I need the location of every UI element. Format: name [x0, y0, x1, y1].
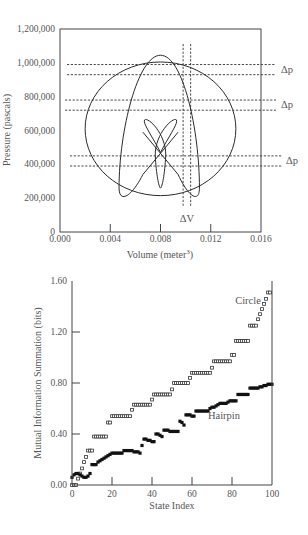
y-tick-label: 400,000 — [24, 159, 55, 169]
circle-data-point — [83, 461, 86, 464]
x-tick-label: 0 — [70, 489, 75, 499]
circle-data-point — [149, 403, 152, 406]
delta-annotations: ΔpΔpΔpΔV — [180, 64, 298, 224]
x-tick-label: 80 — [227, 489, 237, 499]
x-tick-label: 60 — [187, 489, 197, 499]
pv-plot-frame — [60, 29, 261, 232]
circle-series — [71, 291, 272, 486]
circle-data-point — [151, 398, 154, 401]
y-tick-label: 1.20 — [50, 327, 67, 337]
circle-data-point — [105, 435, 108, 438]
y-tick-label: 1,000,000 — [17, 58, 55, 68]
hairpin-data-point — [182, 423, 185, 426]
mutual-information-chart: 020406080100 0.000.400.801.201.60 Circle… — [32, 276, 279, 511]
delta-p-label: Δp — [286, 155, 298, 166]
circle-data-point — [233, 354, 236, 357]
x-tick-label: 20 — [107, 489, 117, 499]
hairpin-data-point — [176, 430, 179, 433]
circle-data-point — [77, 477, 80, 480]
circle-data-point — [261, 308, 264, 311]
circle-data-point — [259, 313, 262, 316]
circle-data-point — [81, 467, 84, 470]
circle-data-point — [91, 449, 94, 452]
pv-x-ticks: 0.0000.0040.0080.0120.016 — [49, 224, 272, 244]
x-tick-label: 0.016 — [250, 234, 272, 244]
circle-trajectory — [85, 62, 236, 196]
y-tick-label: 0 — [50, 227, 55, 237]
hairpin-data-point — [234, 399, 237, 402]
delta-p-label: Δp — [281, 64, 293, 75]
circle-data-point — [169, 393, 172, 396]
circle-data-point — [129, 415, 132, 418]
hairpin-data-point — [138, 452, 141, 455]
y-tick-label: 800,000 — [24, 92, 55, 102]
pv-y-axis-label: Pressure (pascals) — [1, 94, 13, 166]
x-tick-label: 100 — [265, 489, 280, 499]
pv-x-axis-label: Volume (meter3) — [127, 248, 193, 261]
mi-y-ticks: 0.000.400.801.201.60 — [50, 276, 80, 490]
circle-data-point — [171, 388, 174, 391]
circle-data-point — [269, 291, 272, 294]
x-tick-label: 0.012 — [200, 234, 222, 244]
hairpin-data-point — [246, 393, 249, 396]
circle-data-point — [187, 382, 190, 385]
circle-data-point — [209, 371, 212, 374]
pv-y-ticks: 0200,000400,000600,000800,0001,000,0001,… — [17, 24, 55, 237]
delta-dashed-lines — [65, 44, 282, 207]
hairpin-data-point — [192, 415, 195, 418]
y-tick-label: 0.40 — [50, 429, 67, 439]
mi-x-ticks: 020406080100 — [70, 477, 280, 499]
mi-plot-frame — [72, 281, 272, 485]
circle-data-point — [109, 421, 112, 424]
pv-curves — [85, 55, 236, 196]
y-tick-label: 200,000 — [24, 193, 55, 203]
hairpin-data-point — [140, 444, 143, 447]
circle-data-point — [263, 303, 266, 306]
x-tick-label: 40 — [147, 489, 157, 499]
hairpin-series-label: Hairpin — [208, 410, 241, 421]
delta-v-label: ΔV — [180, 213, 195, 224]
x-tick-label: 0.004 — [100, 234, 122, 244]
x-tick-label: 0.008 — [150, 234, 172, 244]
circle-data-point — [211, 366, 214, 369]
y-tick-label: 1.60 — [50, 276, 67, 286]
pv-chart: 0.0000.0040.0080.0120.016 0200,000400,00… — [1, 24, 298, 261]
circle-data-point — [265, 297, 268, 300]
mi-x-axis-label: State Index — [149, 500, 194, 511]
circle-data-point — [257, 318, 260, 321]
circle-data-point — [247, 340, 250, 343]
y-tick-label: 600,000 — [24, 126, 55, 136]
hairpin-series — [70, 383, 273, 479]
figure: 0.0000.0040.0080.0120.016 0200,000400,00… — [0, 0, 308, 535]
mi-y-axis-label: Mutual Information Summation (bits) — [32, 307, 44, 458]
hairpin-data-point — [88, 472, 91, 475]
circle-data-point — [85, 456, 88, 459]
circle-data-point — [255, 324, 258, 327]
hairpin-trajectory — [119, 55, 199, 196]
circle-data-point — [189, 377, 192, 380]
y-tick-label: 1,200,000 — [17, 24, 55, 34]
delta-p-label: Δp — [281, 99, 293, 110]
hairpin-data-point — [160, 435, 163, 438]
circle-data-point — [131, 408, 134, 411]
circle-data-point — [229, 360, 232, 363]
hairpin-data-point — [152, 440, 155, 443]
mi-data-points — [70, 291, 273, 486]
circle-series-label: Circle — [235, 295, 261, 306]
y-tick-label: 0.80 — [50, 378, 67, 388]
y-tick-label: 0.00 — [50, 480, 67, 490]
